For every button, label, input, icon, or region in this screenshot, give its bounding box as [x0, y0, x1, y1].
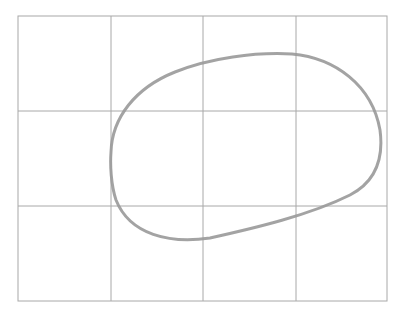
oval-shape	[111, 54, 381, 240]
grid-oval-diagram	[0, 0, 407, 321]
grid	[18, 16, 387, 301]
